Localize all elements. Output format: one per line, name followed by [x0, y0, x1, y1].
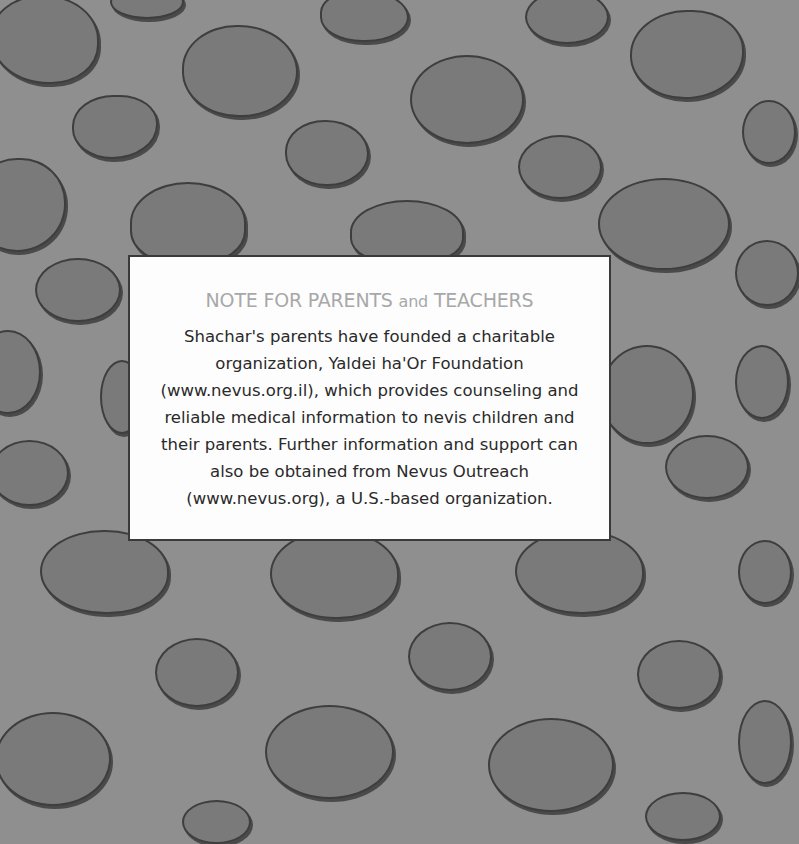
- note-title-and: and: [399, 292, 429, 311]
- background-spot: [515, 530, 644, 614]
- background-spot: [598, 178, 730, 270]
- background-spot: [488, 718, 614, 812]
- background-spot: [665, 435, 749, 499]
- note-body-line: (www.nevus.org.il), which provides couns…: [140, 377, 600, 404]
- note-body-line: also be obtained from Nevus Outreach: [140, 458, 600, 485]
- note-box: NOTE FOR PARENTS and TEACHERS Shachar's …: [128, 255, 611, 541]
- background-spot: [525, 0, 609, 44]
- note-body: Shachar's parents have founded a charita…: [140, 323, 600, 512]
- background-spot: [518, 135, 602, 199]
- background-spot: [182, 25, 298, 117]
- background-spot: [645, 792, 721, 841]
- background-spot: [320, 0, 409, 42]
- note-title-part-2: TEACHERS: [434, 289, 534, 311]
- note-body-line: Shachar's parents have founded a charita…: [140, 323, 600, 350]
- note-title-part-1: NOTE FOR PARENTS: [206, 289, 393, 311]
- background-spot: [40, 530, 169, 614]
- note-body-line: their parents. Further information and s…: [140, 431, 600, 458]
- background-spot: [35, 258, 121, 322]
- background-spot: [742, 100, 796, 164]
- background-spot: [0, 158, 66, 252]
- background-spot: [285, 120, 369, 186]
- background-spot: [408, 622, 492, 691]
- note-body-line: (www.nevus.org), a U.S.-based organizati…: [140, 485, 600, 512]
- background-spot: [182, 800, 251, 844]
- background-spot: [637, 640, 721, 709]
- background-spot: [265, 705, 394, 799]
- background-spot: [155, 638, 239, 707]
- background-spot: [0, 440, 69, 506]
- note-body-line: reliable medical information to nevis ch…: [140, 404, 600, 431]
- background-spot: [630, 10, 744, 99]
- background-spot: [270, 530, 399, 619]
- background-spot: [130, 182, 246, 264]
- background-spot: [600, 345, 694, 444]
- note-body-line: organization, Yaldei ha'Or Foundation: [140, 350, 600, 377]
- background-spot: [0, 0, 99, 84]
- background-spot: [735, 345, 789, 419]
- background-spot: [410, 55, 524, 144]
- background-spot: [735, 240, 799, 306]
- background-spot: [738, 700, 792, 784]
- background-spot: [738, 540, 792, 604]
- background-spot: [0, 712, 111, 806]
- note-title: NOTE FOR PARENTS and TEACHERS: [130, 289, 609, 311]
- background-spot: [110, 0, 184, 19]
- background-spot: [72, 95, 158, 159]
- background-spot: [0, 330, 41, 414]
